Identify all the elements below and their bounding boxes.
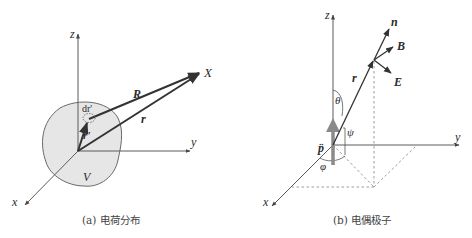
dipole-label: p̈ [317, 141, 324, 155]
vector-E [374, 60, 391, 73]
caption-b: (b) 电偶极子 [333, 214, 391, 226]
projection-origin-dashed [333, 145, 374, 187]
figure-b-electric-dipole: z y x n B E r θ ψ φ p̈ (b) 电偶极子 [262, 8, 461, 226]
E-label: E [393, 75, 402, 89]
x-axis-label: x [262, 195, 269, 209]
y-axis-label: y [454, 130, 461, 144]
psi-bracket [343, 128, 345, 155]
R-label: R [132, 87, 141, 101]
r-prime-label: r' [83, 129, 90, 141]
B-label: B [396, 39, 405, 53]
figure-a-charge-distribution: z y x X R r r' dr' V (a) 电荷分布 [11, 27, 213, 226]
point-X-label: X [203, 65, 213, 80]
dr-prime-label: dr' [82, 103, 92, 114]
x-axis-label: x [11, 195, 18, 209]
z-axis-label: z [324, 8, 330, 22]
theta-label: θ [335, 94, 341, 106]
z-axis-label: z [69, 27, 75, 41]
projection-to-y-dashed [374, 145, 417, 187]
r-label: r [352, 71, 357, 85]
psi-label: ψ [347, 126, 354, 138]
n-label: n [391, 15, 398, 29]
figure-canvas: z y x X R r r' dr' V (a) 电荷分布 [0, 0, 472, 238]
phi-label: φ [320, 160, 326, 172]
r-label: r [141, 112, 146, 126]
caption-a: (a) 电荷分布 [82, 214, 140, 226]
y-axis-label: y [190, 135, 197, 149]
